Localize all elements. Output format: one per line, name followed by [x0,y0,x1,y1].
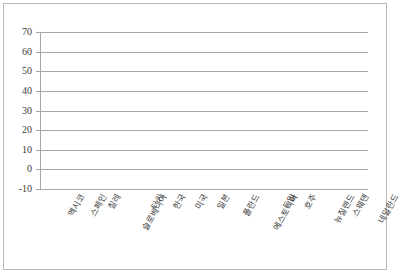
x-axis-category-label: 호주 [303,193,318,211]
y-axis-tick-label: 70 [2,27,32,37]
y-axis-tick-mark [36,111,40,112]
y-axis-tick-mark [36,169,40,170]
y-axis-tick-label: -10 [2,184,32,194]
x-axis-category-label: 폴란드 [242,193,261,218]
gridline [40,52,368,53]
x-axis-category-label: 멕시코 [67,193,86,218]
chart-plot-wrapper: 706050403020100-10 멕시코스페인칠레슬로베니아터키한국미국일본… [4,4,386,269]
y-axis-tick-mark [36,189,40,190]
x-axis-category-label: 독일 [282,193,297,211]
x-axis-category-label: 미국 [194,193,209,211]
y-axis-tick-label: 50 [2,66,32,76]
y-axis-tick-mark [36,52,40,53]
gridline [40,71,368,72]
gridline [40,91,368,92]
x-axis-category-label: 칠레 [107,193,122,211]
y-axis-tick-mark [36,32,40,33]
y-axis-tick-mark [36,71,40,72]
gridline [40,189,368,190]
y-axis-tick-label: 0 [2,164,32,174]
gridline [40,130,368,131]
x-axis-category-label: 한국 [172,193,187,211]
y-axis-tick-label: 60 [2,47,32,57]
plot-area [40,32,368,189]
x-axis-category-label: 일본 [216,193,231,211]
gridline [40,150,368,151]
y-axis-tick-label: 10 [2,145,32,155]
y-axis-tick-label: 40 [2,86,32,96]
x-axis-category-label: 네덜란드 [377,193,400,225]
y-axis-tick-label: 20 [2,125,32,135]
gridline [40,111,368,112]
y-axis-tick-mark [36,130,40,131]
gridline [40,32,368,33]
y-axis-tick-mark [36,150,40,151]
chart-frame: 706050403020100-10 멕시코스페인칠레슬로베니아터키한국미국일본… [3,3,387,270]
gridline [40,169,368,170]
y-axis-tick-label: 30 [2,106,32,116]
y-axis-tick-mark [36,91,40,92]
